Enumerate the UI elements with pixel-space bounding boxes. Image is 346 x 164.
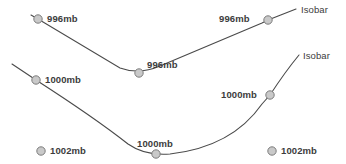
marker-996-left[interactable]: [34, 15, 42, 23]
marker-1000-middle[interactable]: [152, 150, 160, 158]
marker-1002-left[interactable]: [37, 147, 45, 155]
pressure-label-996-middle: 996mb: [147, 60, 178, 70]
pressure-label-1002-right: 1002mb: [281, 146, 317, 156]
marker-996-right[interactable]: [264, 16, 272, 24]
pressure-label-1002-left: 1002mb: [50, 146, 86, 156]
pressure-label-1000-left: 1000mb: [45, 75, 81, 85]
pressure-label-1000-right: 1000mb: [221, 90, 257, 100]
marker-1002-right[interactable]: [268, 147, 276, 155]
marker-1000-right[interactable]: [266, 91, 274, 99]
marker-996-middle[interactable]: [135, 69, 143, 77]
pressure-label-996-right: 996mb: [219, 14, 250, 24]
isobar-diagram: 996mb 996mb 996mb Isobar Isobar 1000mb 1…: [0, 0, 346, 164]
isobar-markers: [32, 15, 276, 158]
isobar-label-top: Isobar: [301, 5, 328, 15]
pressure-label-996-left: 996mb: [47, 14, 78, 24]
isobar-label-bottom: Isobar: [303, 51, 330, 61]
pressure-label-1000-middle: 1000mb: [137, 139, 173, 149]
marker-1000-left[interactable]: [32, 76, 40, 84]
